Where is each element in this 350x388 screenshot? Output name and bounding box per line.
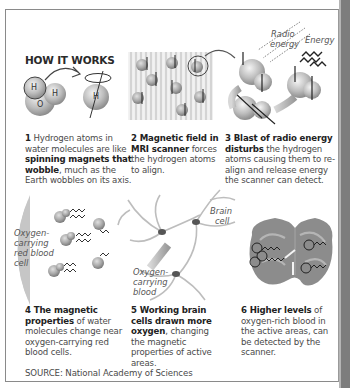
step-4-caption: 4 The magnetic properties of water molec… — [25, 305, 123, 358]
step-5-caption: 5 Working brain cells drawn more oxygen,… — [131, 305, 223, 369]
step-2-caption: 2 Magnetic field in MRI scanner forces t… — [131, 133, 221, 175]
oxygen-label: O — [37, 100, 43, 110]
neuron-nucleus-icon — [192, 219, 200, 225]
red-blood-cell-label: carrying — [14, 238, 49, 248]
energy-label: Energy — [305, 35, 334, 45]
neuron-nucleus-icon — [158, 229, 166, 235]
step-6-caption: 6 Higher levels of oxygen-rich blood in … — [241, 305, 333, 358]
brain-cell-label: cell — [215, 216, 229, 226]
hydrogen-label: H — [31, 83, 37, 93]
radio-energy-label: Radio — [271, 29, 295, 39]
cycle-arrow-icon — [275, 97, 295, 110]
red-blood-cell-label: red blood — [14, 248, 54, 258]
step-1-caption: 1 Hydrogen atoms in water molecules are … — [25, 133, 135, 186]
red-blood-cell-label: cell — [14, 258, 28, 268]
hydrogen-molecule-icon — [239, 52, 272, 92]
blood-flow-arrow-icon — [150, 245, 168, 268]
brain-scan-icon — [250, 218, 333, 286]
hydrogen-label: H — [52, 89, 58, 99]
oxygen-blood-label: carrying — [133, 277, 168, 287]
brain-cell-label: Brain — [210, 206, 232, 216]
magnetic-field-icon — [128, 52, 213, 120]
step-3-caption: 3 Blast of radio energy disturbs the hyd… — [225, 133, 337, 186]
oxygen-blood-label: blood — [133, 287, 156, 297]
water-molecules-icon — [48, 209, 105, 277]
oxygen-blood-label: Oxygen- — [133, 267, 168, 277]
red-blood-cell-label: Oxygen- — [14, 228, 49, 238]
radio-energy-label: energy — [270, 39, 299, 49]
neuron-nucleus-icon — [172, 271, 180, 277]
released-molecule-icon — [287, 66, 321, 100]
energy-wave-icon — [300, 52, 326, 66]
arrow-icon — [45, 68, 78, 80]
source-credit: SOURCE: National Academy of Sciences — [25, 368, 193, 378]
hydrogen-label: H — [93, 92, 99, 102]
tilted-molecule-icon — [233, 93, 275, 124]
